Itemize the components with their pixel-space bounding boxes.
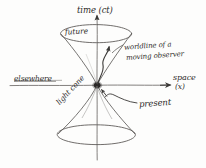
time-axis-label: time (ct) — [77, 6, 113, 15]
space-axis-variable-label: (x) — [175, 83, 185, 91]
origin-event-point — [92, 81, 102, 89]
spacetime-diagram-figure: time (ct) future elsewhere space (x) wor… — [0, 0, 206, 168]
worldline-curve — [98, 47, 110, 85]
worldline-leader-stroke — [112, 45, 123, 53]
elsewhere-region-label: elsewhere — [14, 75, 52, 83]
future-region-label: future — [65, 27, 88, 36]
